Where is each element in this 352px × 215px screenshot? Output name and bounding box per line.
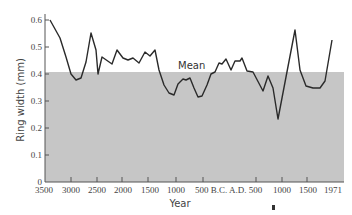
x-tick-label: 1971 [324, 185, 342, 195]
mean-label: Mean [178, 60, 205, 71]
x-axis-title: Year [168, 198, 191, 209]
y-tick-label: 0.6 [31, 15, 43, 25]
x-tick-labels: 3500 3000 2500 2000 1500 1000 500 B.C. A… [35, 185, 342, 195]
y-tick-label: 0.4 [31, 69, 43, 79]
y-tick-label: 0.5 [31, 42, 43, 52]
x-tick-label: 500 B.C. [195, 185, 227, 195]
x-tick-label: 1000 [167, 185, 186, 195]
x-tick-label: 2500 [88, 185, 107, 195]
y-tick-label: 0.2 [31, 123, 42, 133]
x-tick-label: 1500 [141, 185, 160, 195]
y-tick-label: 0.1 [31, 150, 42, 160]
x-tick-label: 3500 [35, 185, 54, 195]
x-tick-label: 1500 [299, 185, 318, 195]
x-tick-label: 1000 [273, 185, 292, 195]
y-tick-labels: 0 0.1 0.2 0.3 0.4 0.5 0.6 [31, 15, 43, 187]
y-axis-title: Ring width (mm) [15, 58, 26, 142]
x-tick-label: 2000 [114, 185, 133, 195]
x-tick-label: 3000 [62, 185, 81, 195]
stray-mark [272, 205, 275, 210]
ring-width-chart: 0 0.1 0.2 0.3 0.4 0.5 0.6 3500 3000 2500… [0, 0, 352, 215]
y-tick-label: 0.3 [31, 96, 43, 106]
x-tick-label: A.D. 500 [229, 185, 263, 195]
